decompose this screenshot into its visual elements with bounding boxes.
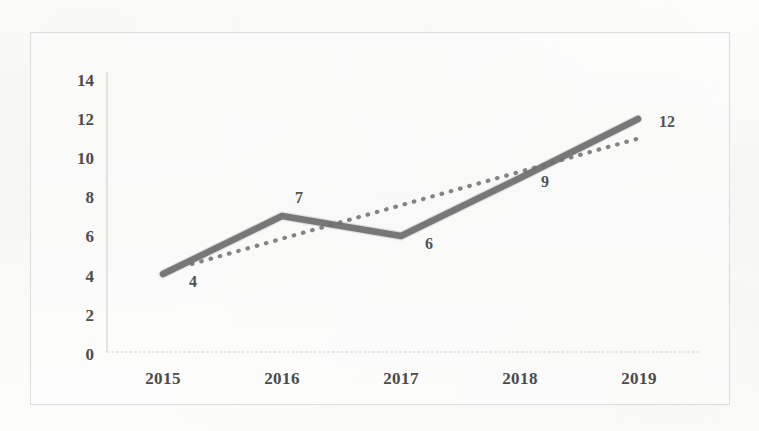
x-axis-tick-labels: 2015 2016 2017 2018 2019 [145, 369, 657, 388]
axes [107, 72, 700, 352]
data-label-2016: 7 [295, 189, 303, 206]
data-series-line [163, 119, 638, 274]
y-tick-6: 6 [86, 227, 95, 246]
data-label-2019: 12 [659, 113, 675, 130]
series-line-halo [163, 119, 638, 274]
y-tick-2: 2 [86, 306, 95, 325]
y-tick-4: 4 [86, 267, 95, 286]
x-tick-2017: 2017 [383, 369, 419, 388]
x-tick-2015: 2015 [145, 369, 181, 388]
trendline-path [192, 138, 640, 264]
data-label-2018: 9 [541, 173, 549, 190]
y-axis-tick-labels: 14 12 10 8 6 4 2 0 [77, 71, 95, 364]
trendline-series [192, 138, 640, 264]
x-tick-2018: 2018 [502, 369, 538, 388]
y-tick-10: 10 [77, 149, 94, 168]
series-line-path [163, 119, 638, 274]
y-tick-12: 12 [77, 110, 94, 129]
data-label-2015: 4 [189, 273, 197, 290]
y-tick-0: 0 [86, 345, 95, 364]
data-label-2017: 6 [425, 235, 433, 252]
y-tick-14: 14 [77, 71, 95, 90]
x-tick-2019: 2019 [621, 369, 657, 388]
line-chart: 14 12 10 8 6 4 2 0 2015 2016 2017 2018 2… [0, 0, 759, 431]
x-tick-2016: 2016 [264, 369, 300, 388]
y-tick-8: 8 [86, 188, 95, 207]
